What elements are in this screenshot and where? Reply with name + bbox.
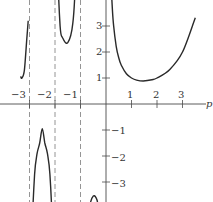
- y-tick-label-neg3: −3: [111, 178, 126, 189]
- y-tick-label-neg1: −1: [111, 125, 126, 136]
- x-tick-label-neg1: −1: [63, 89, 78, 100]
- gamma-function-plot: −3 −2 −1 1 2 3 p 3 2 1 −1 −2 −3: [0, 0, 213, 202]
- x-tick-label-1: 1: [127, 89, 133, 100]
- gamma-curve-branch: [57, 0, 80, 43]
- gamma-curve-branch: [111, 0, 195, 81]
- x-tick-label-3: 3: [178, 89, 184, 100]
- gamma-curves: [21, 0, 196, 202]
- x-axis-label: p: [206, 98, 213, 109]
- gamma-curve-branch: [21, 21, 29, 78]
- x-tick-label-neg3: −3: [11, 89, 26, 100]
- y-tick-label-neg2: −2: [111, 152, 126, 163]
- gamma-curve-branch: [83, 196, 99, 202]
- y-tick-label-2: 2: [96, 46, 102, 57]
- x-tick-label-neg2: −2: [37, 89, 52, 100]
- y-tick-label-1: 1: [96, 72, 102, 83]
- x-tick-label-2: 2: [153, 89, 159, 100]
- y-tick-label-3: 3: [96, 20, 102, 31]
- gamma-curve-branch: [31, 129, 54, 202]
